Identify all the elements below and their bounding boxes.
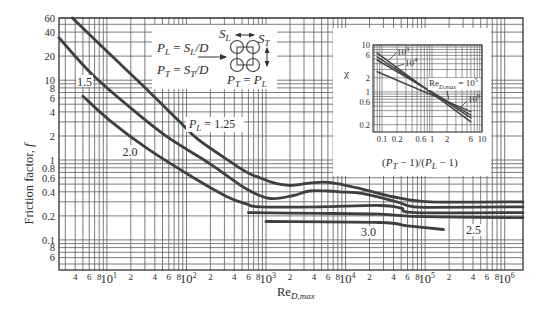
main-x-tick-label: 4 <box>153 272 158 282</box>
y-axis-label-text: Friction factor, <box>22 147 36 225</box>
main-x-tick-label: 6 <box>326 272 331 282</box>
label-value: 1.25 <box>214 117 235 131</box>
x-axis-label-base: Re <box>277 285 291 299</box>
label-equals: = <box>456 78 466 88</box>
eq-equals: = <box>170 40 184 55</box>
eq-tail: /D <box>194 62 209 77</box>
main-x-tick-label: 6 <box>167 272 172 282</box>
series-label-1-5: 1.5 <box>76 75 93 89</box>
inset-x-tick-label: 1 <box>430 134 434 144</box>
inset-x-tick-label: 0.6 <box>416 134 427 144</box>
inset-y-tick-label: 1 <box>366 87 370 97</box>
y-axis-label: Friction factor, f <box>22 142 36 225</box>
inset-y-tick-label: 10 <box>362 40 371 50</box>
main-x-tick-exponent: 4 <box>352 271 356 280</box>
main-x-tick-label: 4 <box>73 272 78 282</box>
series-label-text: PL = 1.25 <box>188 117 235 133</box>
main-x-tick-label: 6 <box>87 272 92 282</box>
main-y-tick-label: 6 <box>50 93 55 104</box>
inset-x-tick-label: 0.2 <box>392 134 403 144</box>
eq-symbol: P <box>226 72 235 87</box>
eq-symbol: P <box>156 40 165 55</box>
label-exponent: 3 <box>406 45 409 52</box>
longitudinal-pitch-equation: PL = SL/D <box>156 40 209 57</box>
inset-y-tick-label: 6 <box>366 50 370 60</box>
main-x-tick-label: 2 <box>367 272 372 282</box>
main-x-tick-label: 4 <box>471 272 476 282</box>
main-x-tick-label: 6 <box>405 272 410 282</box>
inset-y-tick-label: 2 <box>366 73 370 83</box>
series-label-text: 3.0 <box>361 225 376 239</box>
x-axis-label-sub: D,max <box>290 291 315 301</box>
series-label-text: 2.0 <box>123 145 138 159</box>
main-x-tick-label: 2 <box>129 272 134 282</box>
inset-y-tick-label: 0.2 <box>359 120 370 130</box>
series-label-1-25: PL = 1.25 <box>186 117 244 133</box>
label-exponent: 5 <box>475 76 478 83</box>
main-y-tick-label: 60 <box>45 13 56 24</box>
main-y-tick-label: 2 <box>50 131 55 142</box>
main-x-tick-exponent: 3 <box>272 271 276 280</box>
series-label-2-5: 2.5 <box>464 223 483 237</box>
main-x-tick-label: 4 <box>391 272 396 282</box>
inset-xlabel-part: − 1) <box>437 156 458 169</box>
main-x-tick-label: 6 <box>246 272 251 282</box>
main-x-tick-exponent: 5 <box>431 271 435 280</box>
eq-tail: /D <box>194 40 209 55</box>
inset-x-tick-label: 6 <box>469 134 473 144</box>
series-label-text: 2.5 <box>466 223 481 237</box>
inset-x-tick-label: 10 <box>478 134 487 144</box>
label-subscript: D,max <box>438 83 456 90</box>
main-y-tick-label: 4 <box>50 107 56 118</box>
inset-xlabel-part: − 1)/( <box>397 156 425 169</box>
main-x-tick-label: 4 <box>232 272 237 282</box>
main-x-tick-label: 4 <box>312 272 317 282</box>
friction-factor-chart: 4681012468102246810324681042468105246810… <box>0 0 550 324</box>
main-x-tick-exponent: 1 <box>113 271 117 280</box>
main-x-tick-exponent: 2 <box>193 271 197 280</box>
main-x-tick-label: 2 <box>447 272 452 282</box>
main-y-tick-label: 0.4 <box>42 187 56 198</box>
eq-subscript: L <box>261 79 267 89</box>
transverse-pitch-equation: PT = ST/D <box>156 62 209 79</box>
main-y-tick-label: 6 <box>50 252 55 263</box>
main-x-tick-label: 2 <box>288 272 293 282</box>
label-equals: = <box>201 117 214 131</box>
main-y-tick-label: 0.6 <box>42 173 55 184</box>
inset-x-tick-label: 0.1 <box>377 134 388 144</box>
eq-symbol: P <box>156 62 165 77</box>
series-label-text: 1.5 <box>77 75 92 89</box>
tube-geometry-diagram: PL = SL/D PT = ST/D SL ST PT = PL <box>152 25 277 89</box>
eq-equals: = <box>240 72 254 87</box>
series-label-2-0: 2.0 <box>121 145 139 159</box>
equal-pitch-equation: PT = PL <box>226 72 267 89</box>
inset-y-tick-label: 0.6 <box>359 97 370 107</box>
main-y-tick-label: 20 <box>45 51 56 62</box>
inset-x-tick-label: 2 <box>445 134 449 144</box>
inset-y-axis-label: χ <box>343 67 349 79</box>
main-x-tick-label: 2 <box>208 272 213 282</box>
main-x-tick-label: 6 <box>485 272 490 282</box>
eq-equals: = <box>170 62 184 77</box>
sl-subscript: L <box>225 33 231 43</box>
eq-symbol: P <box>253 72 262 87</box>
main-y-tick-label: 0.2 <box>42 211 55 222</box>
series-label-3-0: 3.0 <box>359 225 378 239</box>
main-y-tick-label: 40 <box>45 27 56 38</box>
main-x-tick-exponent: 6 <box>511 271 515 280</box>
label-prefix: Re <box>429 78 439 88</box>
